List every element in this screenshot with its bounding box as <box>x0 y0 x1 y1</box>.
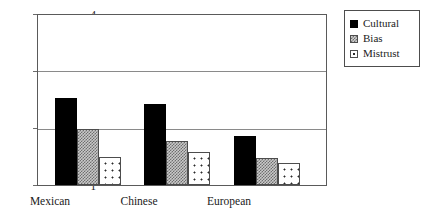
bar-european-bias[interactable] <box>256 158 278 185</box>
x-axis-label-chinese: Chinese <box>94 196 184 208</box>
legend-swatch-icon-mistrust <box>350 50 358 58</box>
bar-european-mistrust[interactable] <box>278 163 300 185</box>
bar-mexican-mistrust[interactable] <box>99 157 121 185</box>
legend-swatch-icon-cultural <box>350 20 358 28</box>
bar-mexican-cultural[interactable] <box>55 98 77 185</box>
legend-label-cultural: Cultural <box>363 18 399 29</box>
legend-label-mistrust: Mistrust <box>363 48 400 59</box>
bar-chart: 4 3 2 1 Mexican Chinese European Cultura… <box>0 0 427 220</box>
legend-item-mistrust[interactable]: Mistrust <box>350 46 415 61</box>
legend-label-bias: Bias <box>363 33 383 44</box>
legend: Cultural Bias Mistrust <box>344 10 420 67</box>
bar-chinese-bias[interactable] <box>166 141 188 186</box>
bar-chinese-cultural[interactable] <box>144 104 166 185</box>
bar-mexican-bias[interactable] <box>77 129 99 185</box>
bar-chinese-mistrust[interactable] <box>188 152 210 185</box>
bar-european-cultural[interactable] <box>234 136 256 185</box>
legend-item-bias[interactable]: Bias <box>350 31 415 46</box>
x-axis-label-mexican: Mexican <box>5 196 95 208</box>
bars-layer <box>38 14 326 185</box>
legend-swatch-icon-bias <box>350 35 358 43</box>
x-axis-label-european: European <box>184 196 274 208</box>
legend-item-cultural[interactable]: Cultural <box>350 16 415 31</box>
